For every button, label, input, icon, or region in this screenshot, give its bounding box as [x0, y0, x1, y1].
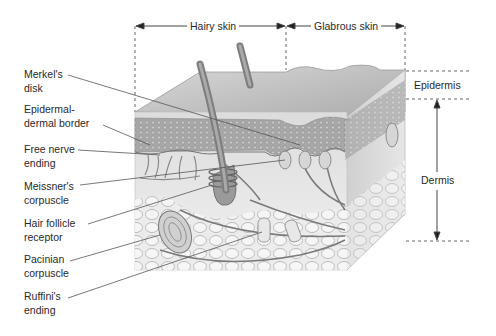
- label-free-nerve-ending: Free nerve ending: [24, 143, 75, 170]
- label-ruffinis-ending: Ruffini's ending: [24, 290, 61, 317]
- label-epidermis: Epidermis: [414, 79, 461, 93]
- label-hair-follicle-receptor: Hair follicle receptor: [24, 217, 75, 244]
- label-glabrous-skin: Glabrous skin: [311, 20, 381, 32]
- label-dermis: Dermis: [421, 172, 454, 190]
- label-hairy-skin: Hairy skin: [187, 20, 239, 32]
- label-meissners-corpuscle: Meissner's corpuscle: [24, 180, 74, 207]
- label-merkels-disk: Merkel's disk: [24, 68, 63, 95]
- label-pacinian-corpuscle: Pacinian corpuscle: [24, 253, 69, 280]
- label-epidermal-dermal-border: Epidermal- dermal border: [24, 103, 89, 130]
